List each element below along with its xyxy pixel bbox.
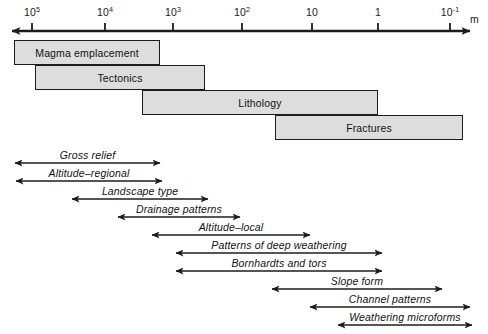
axis-tick-label: 104 xyxy=(97,6,113,18)
control-box-label: Fractures xyxy=(346,122,392,134)
span-arrow-label: Weathering microforms xyxy=(349,311,461,323)
span-arrow-label: Gross relief xyxy=(60,149,115,161)
control-box-label: Lithology xyxy=(238,97,281,109)
scale-range-diagram: 10510410310210110-1 m Magma emplacementT… xyxy=(0,0,488,334)
axis-tick-label: 105 xyxy=(24,6,40,18)
span-arrow-label: Drainage patterns xyxy=(136,203,222,215)
axis-tick-label: 1 xyxy=(375,6,381,18)
control-box: Lithology xyxy=(142,90,378,115)
span-arrow-label: Patterns of deep weathering xyxy=(211,239,346,251)
control-box-label: Magma emplacement xyxy=(35,47,139,59)
axis-tick-label: 102 xyxy=(234,6,250,18)
span-arrow-label: Slope form xyxy=(331,275,383,287)
span-arrow-label: Bornhardts and tors xyxy=(231,257,326,269)
axis-unit-label: m xyxy=(470,13,479,25)
axis-tick-label: 103 xyxy=(165,6,181,18)
span-arrow-label: Channel patterns xyxy=(349,293,431,305)
span-arrow-label: Altitude–local xyxy=(199,221,264,233)
control-box: Tectonics xyxy=(35,65,205,90)
control-box: Fractures xyxy=(275,115,463,140)
axis-tick-label: 10-1 xyxy=(441,6,459,18)
axis-tick-label: 10 xyxy=(306,6,318,18)
span-arrow-label: Altitude–regional xyxy=(49,167,130,179)
span-arrow-label: Landscape type xyxy=(102,185,178,197)
control-box: Magma emplacement xyxy=(14,40,160,65)
control-box-label: Tectonics xyxy=(97,72,142,84)
